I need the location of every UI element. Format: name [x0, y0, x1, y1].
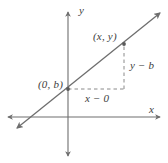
label-run: x − 0 [85, 93, 109, 104]
label-rise: y − b [130, 60, 154, 71]
coordinate-plane-graphic [0, 0, 168, 163]
point-marker-y-intercept [66, 87, 70, 91]
label-axis-x: x [149, 104, 154, 115]
point-marker-xy [122, 42, 126, 46]
figure-canvas: (x, y) (0, b) y − b x − 0 y x [0, 0, 168, 163]
label-point-y-intercept: (0, b) [38, 79, 63, 90]
label-point-xy: (x, y) [93, 31, 117, 42]
label-axis-y: y [79, 5, 84, 16]
